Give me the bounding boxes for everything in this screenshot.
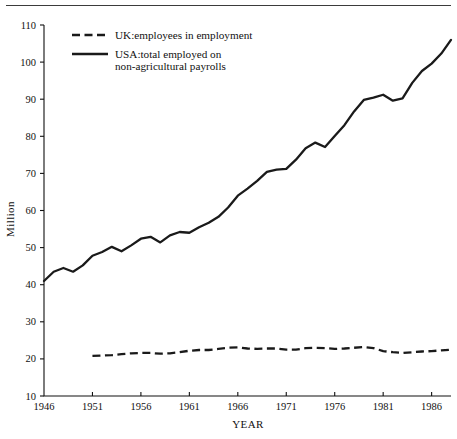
x-tick-label: 1986 (421, 401, 442, 412)
y-tick-label: 110 (21, 20, 36, 31)
chart-series-layer (44, 40, 451, 356)
x-axis-title: YEAR (232, 418, 264, 430)
x-axis-ticks (92, 392, 431, 396)
employment-line-chart: 102030405060708090100110 194619511956196… (0, 0, 457, 439)
x-tick-label: 1961 (179, 401, 200, 412)
legend-label-uk: UK:employees in employment (115, 29, 253, 41)
y-axis-ticks (40, 25, 44, 396)
y-tick-label: 20 (26, 353, 37, 364)
y-axis-tick-labels: 102030405060708090100110 (20, 20, 36, 402)
x-axis-tick-labels: 194619511956196119661971197619811986 (34, 401, 443, 412)
y-tick-label: 60 (26, 205, 37, 216)
y-tick-label: 50 (26, 242, 37, 253)
series-line-uk (92, 347, 451, 356)
x-tick-label: 1966 (227, 401, 248, 412)
legend-label-usa-line1: USA:total employed on (115, 48, 222, 60)
y-tick-label: 80 (26, 131, 37, 142)
y-tick-label: 90 (26, 94, 37, 105)
chart-axes: 102030405060708090100110 194619511956196… (20, 20, 451, 413)
chart-legend: UK:employees in employment USA:total emp… (72, 29, 253, 72)
y-tick-label: 70 (26, 168, 37, 179)
y-tick-label: 100 (20, 57, 36, 68)
x-tick-label: 1956 (130, 401, 151, 412)
x-tick-label: 1976 (324, 401, 345, 412)
legend-label-usa-line2: non-agricultural payrolls (115, 60, 226, 72)
series-line-usa (44, 40, 451, 281)
x-tick-label: 1971 (276, 401, 297, 412)
y-tick-label: 10 (26, 391, 37, 402)
x-tick-label: 1946 (34, 401, 55, 412)
axis-left-and-bottom (44, 25, 451, 396)
y-tick-label: 40 (26, 279, 37, 290)
y-tick-label: 30 (26, 316, 37, 327)
y-axis-title: Million (4, 201, 16, 237)
chart-figure: 102030405060708090100110 194619511956196… (0, 0, 457, 439)
x-tick-label: 1951 (82, 401, 103, 412)
x-tick-label: 1981 (373, 401, 394, 412)
